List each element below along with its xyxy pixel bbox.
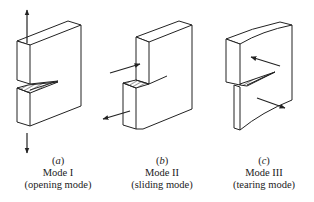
caption-a-description: (opening mode) [6, 179, 110, 191]
caption-panel-b: (b) Mode II (sliding mode) [110, 155, 214, 191]
panel-a-mode-i-specimen [17, 10, 81, 153]
caption-b-description: (sliding mode) [110, 179, 214, 191]
caption-c-mode: Mode III [212, 167, 314, 179]
caption-b-mode: Mode II [110, 167, 214, 179]
arrow-lower-right-icon [257, 98, 285, 108]
panel-c-mode-iii-specimen [226, 22, 292, 130]
caption-panel-a: (a) Mode I (opening mode) [6, 155, 110, 191]
caption-panel-c: (c) Mode III (tearing mode) [212, 155, 314, 191]
caption-a-mode: Mode I [6, 167, 110, 179]
panel-b-mode-ii-specimen [103, 21, 192, 129]
caption-c-description: (tearing mode) [212, 179, 314, 191]
arrow-upper-left-icon [251, 57, 280, 66]
